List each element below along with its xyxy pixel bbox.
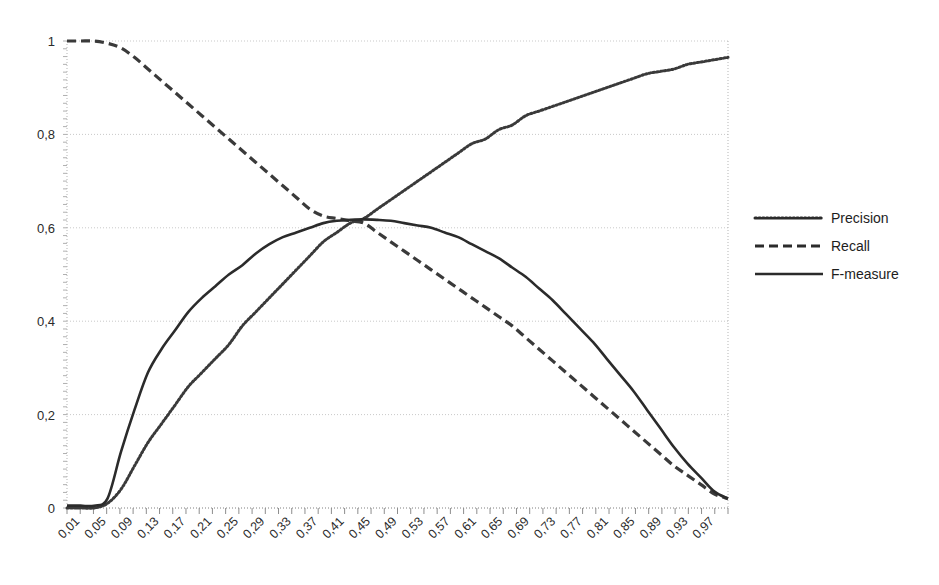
plot-background — [67, 41, 728, 508]
x-tick-label: 0,13 — [135, 514, 162, 541]
x-tick-label: 0,21 — [187, 514, 214, 541]
x-tick-label: 0,85 — [610, 514, 637, 541]
x-tick-label: 0,69 — [505, 514, 532, 541]
legend-label-precision: Precision — [831, 210, 889, 226]
x-tick-label: 0,25 — [214, 514, 241, 541]
y-axis-ticks — [63, 41, 67, 508]
x-tick-label: 0,09 — [108, 514, 135, 541]
x-tick-label: 0,97 — [690, 514, 717, 541]
x-tick-label: 0,17 — [161, 514, 188, 541]
x-tick-label: 0,37 — [293, 514, 320, 541]
y-tick-label: 0,4 — [37, 314, 55, 329]
x-tick-label: 0,05 — [82, 514, 109, 541]
x-tick-label: 0,33 — [267, 514, 294, 541]
x-tick-label: 0,29 — [240, 514, 267, 541]
y-tick-label: 0 — [48, 501, 55, 516]
chart-legend: PrecisionRecallF-measure — [755, 210, 899, 282]
x-tick-label: 0,49 — [373, 514, 400, 541]
y-axis-tick-labels: 00,20,40,60,81 — [37, 34, 55, 516]
y-tick-label: 0,2 — [37, 408, 55, 423]
y-tick-label: 0,8 — [37, 127, 55, 142]
x-tick-label: 0,45 — [346, 514, 373, 541]
legend-label-recall: Recall — [831, 238, 870, 254]
y-tick-label: 0,6 — [37, 221, 55, 236]
x-tick-label: 0,65 — [478, 514, 505, 541]
legend-label-f-measure: F-measure — [831, 266, 899, 282]
chart-canvas: 00,20,40,60,81 0,010,050,090,130,170,210… — [0, 0, 939, 585]
x-axis-tick-labels: 0,010,050,090,130,170,210,250,290,330,37… — [55, 514, 717, 541]
x-tick-label: 0,93 — [663, 514, 690, 541]
x-tick-label: 0,53 — [399, 514, 426, 541]
x-tick-label: 0,61 — [452, 514, 479, 541]
x-tick-label: 0,01 — [55, 514, 82, 541]
x-tick-label: 0,77 — [558, 514, 585, 541]
x-tick-label: 0,89 — [637, 514, 664, 541]
precision-recall-fmeasure-chart: 00,20,40,60,81 0,010,050,090,130,170,210… — [0, 0, 939, 585]
x-tick-label: 0,81 — [584, 514, 611, 541]
y-tick-label: 1 — [48, 34, 55, 49]
x-axis-ticks — [67, 508, 728, 514]
x-tick-label: 0,73 — [531, 514, 558, 541]
x-tick-label: 0,41 — [320, 514, 347, 541]
x-tick-label: 0,57 — [425, 514, 452, 541]
